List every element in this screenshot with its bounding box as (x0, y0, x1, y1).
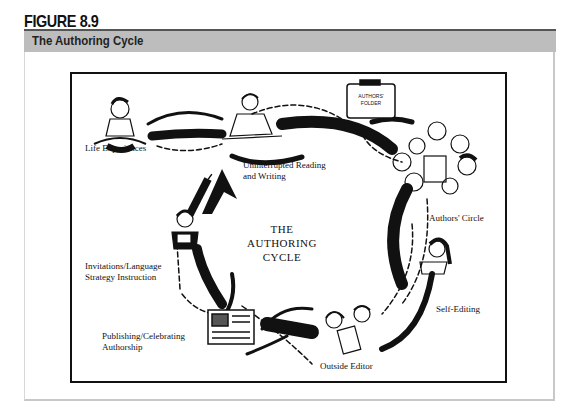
figure-header: The Authoring Cycle (24, 29, 556, 52)
child-reading-illustration (172, 211, 198, 249)
figure-title: The Authoring Cycle (32, 33, 143, 48)
label-outside-editor: Outside Editor (320, 361, 373, 372)
label-line: Publishing/Celebrating (102, 331, 185, 342)
label-line: Invitations/Language (85, 261, 161, 272)
folder-illustration: AUTHORS' FOLDER (347, 80, 395, 118)
label-life-experiences: Life Experiences (85, 143, 146, 154)
svg-text:FOLDER: FOLDER (361, 100, 382, 106)
label-self-editing: Self-Editing (436, 304, 480, 315)
label-line: and Writing (243, 171, 326, 182)
center-title-line: AUTHORING (242, 236, 322, 250)
label-invitations-strategy: Invitations/Language Strategy Instructio… (85, 261, 161, 283)
label-line: Authorship (102, 342, 185, 353)
label-line: Uninterrupted Reading (243, 160, 326, 171)
two-children-illustration (326, 306, 370, 354)
authoring-cycle-diagram: AUTHORS' FOLDER (70, 72, 507, 383)
cycle-center-title: THE AUTHORING CYCLE (242, 222, 322, 264)
child-editing-illustration (420, 239, 450, 274)
student-writing-illustration (222, 94, 282, 139)
label-authors-circle: Authors' Circle (429, 213, 484, 224)
label-publishing-celebrating: Publishing/Celebrating Authorship (102, 331, 185, 353)
center-title-line: THE (242, 222, 322, 236)
label-line: Strategy Instruction (85, 272, 161, 283)
center-title-line: CYCLE (242, 250, 322, 264)
svg-text:AUTHORS': AUTHORS' (358, 93, 383, 99)
label-uninterrupted-reading-writing: Uninterrupted Reading and Writing (243, 160, 326, 182)
published-book-illustration (208, 310, 254, 344)
group-of-children-illustration (393, 122, 476, 194)
